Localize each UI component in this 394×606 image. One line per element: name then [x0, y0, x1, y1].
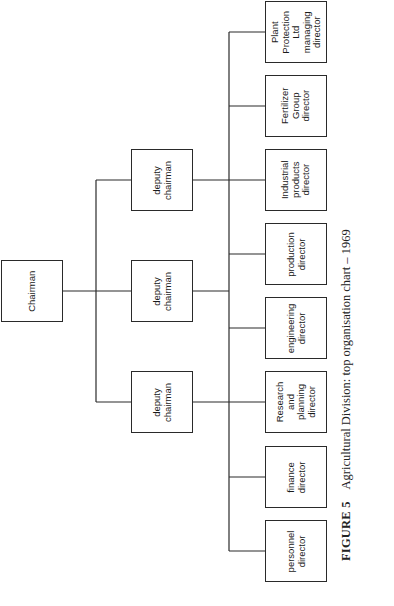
chairman-box: Chairman — [1, 260, 63, 322]
figure-number: FIGURE 5 — [339, 501, 353, 561]
plant-protection-director-box: Plant Protection Ltd managing director — [265, 1, 327, 63]
engineering-director-box: engineering director — [265, 297, 327, 359]
finance-director-label: finance director — [286, 447, 307, 507]
fertilizer-group-director-label: Fertilizer Group director — [280, 76, 312, 136]
research-planning-director-box: Research and planning director — [265, 371, 327, 433]
figure-caption: FIGURE 5Agricultural Division: top organ… — [338, 261, 354, 561]
industrial-products-director-label: Industrial products director — [280, 150, 312, 210]
personnel-director-box: personnel director — [265, 520, 327, 582]
research-planning-director-label: Research and planning director — [275, 372, 317, 432]
figure-caption-text: Agricultural Division: top organisation … — [339, 229, 353, 489]
deputy-chairman-box-3: deputy chairman — [131, 371, 193, 433]
deputy-chairman-box-1: deputy chairman — [131, 149, 193, 211]
engineering-director-label: engineering director — [286, 298, 307, 358]
personnel-director-label: personnel director — [286, 521, 307, 581]
deputy-chairman-label: deputy chairman — [152, 261, 173, 321]
production-director-box: production director — [265, 223, 327, 285]
industrial-products-director-box: Industrial products director — [265, 149, 327, 211]
fertilizer-group-director-box: Fertilizer Group director — [265, 75, 327, 137]
production-director-label: production director — [286, 224, 307, 284]
deputy-chairman-box-2: deputy chairman — [131, 260, 193, 322]
deputy-chairman-label: deputy chairman — [152, 372, 173, 432]
finance-director-box: finance director — [265, 446, 327, 508]
plant-protection-director-label: Plant Protection Ltd managing director — [270, 2, 323, 62]
deputy-chairman-label: deputy chairman — [152, 150, 173, 210]
chairman-label: Chairman — [27, 261, 38, 321]
